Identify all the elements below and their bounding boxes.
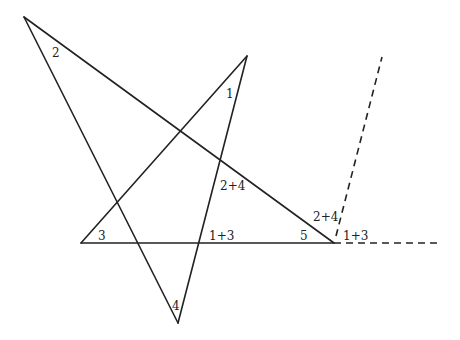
line-top-left-to-bottom: [24, 17, 178, 323]
angle-label-bottom: 4: [172, 299, 180, 313]
line-top-left-to-right-base: [24, 17, 334, 243]
angle-label-top: 1: [226, 87, 234, 101]
angle-label-inner-lower: 1+3: [209, 229, 234, 243]
angle-label-right-exterior-lower: 1+3: [343, 229, 368, 243]
dashed-exterior-line: [336, 57, 382, 236]
angle-label-inner-upper: 2+4: [220, 179, 246, 193]
angle-label-left-base: 3: [98, 229, 106, 243]
angle-label-top-left: 2: [52, 46, 60, 60]
angle-label-right-exterior-upper: 2+4: [313, 210, 339, 224]
angle-label-right-base-interior: 5: [300, 229, 308, 243]
star-angle-diagram: 2 1 3 4 5 2+4 1+3 2+4 1+3: [0, 0, 460, 340]
